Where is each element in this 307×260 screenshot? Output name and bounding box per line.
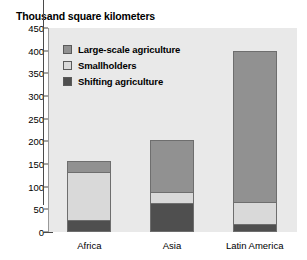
x-axis-line [43,232,53,233]
y-axis-tick-label: 350 [18,68,44,79]
bar-group [67,28,111,232]
bar-segment[interactable] [151,141,193,192]
bar-segment[interactable] [68,162,110,171]
y-axis-tick-label: 50 [18,204,44,215]
y-axis: 450400350300250200150100500 [0,28,44,232]
bar-segment[interactable] [234,202,276,225]
bar-segment[interactable] [234,52,276,202]
chart-container: Thousand square kilometers 4504003503002… [0,0,307,260]
stacked-bar[interactable] [67,161,111,232]
x-axis-category-label: Africa [77,240,101,251]
bar-segment[interactable] [68,221,110,231]
y-axis-tick-label: 150 [18,159,44,170]
chart-title: Thousand square kilometers [16,10,155,22]
y-axis-tick-label: 0 [18,227,44,238]
y-axis-tick-label: 300 [18,91,44,102]
x-axis-category-label: Asia [163,240,181,251]
stacked-bar[interactable] [233,51,277,232]
bar-segment[interactable] [234,225,276,231]
stacked-bar[interactable] [150,140,194,232]
y-axis-tick-label: 400 [18,45,44,56]
y-axis-tick-label: 250 [18,113,44,124]
bar-group [233,28,277,232]
y-axis-line [43,0,44,205]
bar-group [150,28,194,232]
y-axis-tick-label: 200 [18,136,44,147]
y-axis-tick-label: 100 [18,181,44,192]
bar-segment[interactable] [151,192,193,205]
x-axis-category-label: Latin America [226,240,284,251]
bar-segment[interactable] [151,204,193,231]
y-axis-tick-label: 450 [18,23,44,34]
bar-segment[interactable] [68,172,110,222]
